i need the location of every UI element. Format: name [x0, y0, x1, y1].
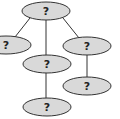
node-right-label: ? — [84, 40, 90, 53]
node-bottom: ? — [23, 98, 71, 116]
edge-root-left — [15, 18, 30, 37]
node-right-child-label: ? — [84, 80, 90, 93]
node-root-label: ? — [43, 5, 49, 18]
edge-root-right — [63, 18, 79, 38]
node-root: ? — [22, 2, 70, 20]
node-left: ? — [0, 36, 31, 54]
node-middle-label: ? — [44, 58, 50, 71]
node-bottom-label: ? — [44, 101, 50, 114]
node-left-label: ? — [3, 39, 9, 52]
tree-diagram: ? ? ? ? ? ? — [0, 0, 120, 119]
node-right: ? — [63, 37, 111, 55]
node-middle: ? — [23, 55, 71, 73]
node-right-child: ? — [63, 77, 111, 95]
